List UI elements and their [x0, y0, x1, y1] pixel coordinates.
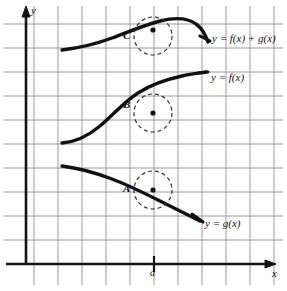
axes	[6, 6, 276, 272]
curve-sum	[62, 19, 208, 50]
point-label-a: A	[123, 183, 130, 194]
leader-f	[198, 72, 208, 73]
y-axis-label: y	[31, 5, 36, 16]
point-c-dot	[150, 27, 155, 32]
grid-lines	[4, 6, 283, 285]
curve-g	[62, 166, 200, 221]
curve-label-g: y = g(x)	[205, 218, 241, 229]
point-a-dot	[150, 187, 155, 192]
y-axis-arrowhead	[22, 6, 30, 17]
point-b-dot	[150, 110, 155, 115]
point-label-b: B	[123, 99, 130, 110]
point-label-c: C	[123, 30, 130, 41]
curve-f	[62, 72, 206, 143]
x-tick-label-a: a	[150, 268, 155, 278]
curve-label-sum: y = f(x) + g(x)	[212, 33, 276, 44]
x-axis-label: x	[272, 268, 277, 279]
label-leaders	[192, 36, 210, 222]
derivative-sum-figure: y = f(x) + g(x) y = f(x) y = g(x) C B A …	[0, 0, 287, 291]
curve-label-f: y = f(x)	[211, 72, 244, 83]
